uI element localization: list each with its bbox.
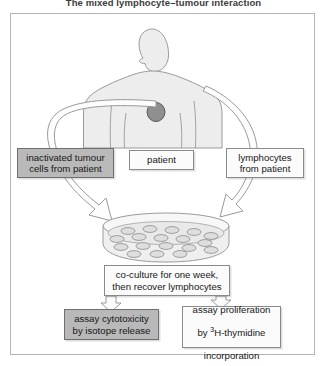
figure-caption: The mixed lymphocyte–tumour interaction [0, 0, 327, 8]
label-patient: patient [129, 150, 194, 170]
label-assay-proliferation: assay proliferation by 3H-thymidine inco… [182, 306, 281, 348]
assay-proliferation-line1: assay proliferation [193, 304, 271, 315]
label-coculture-step: co-culture for one week, then recover ly… [104, 265, 230, 296]
assay-proliferation-line2-pre: by [198, 327, 211, 338]
label-lymphocytes-from-patient: lymphocytes from patient [226, 148, 304, 178]
label-assay-cytotoxicity: assay cytotoxicity by isotope release [64, 309, 159, 340]
assay-proliferation-line3: incorporation [204, 350, 259, 361]
assay-proliferation-line2-post: H-thymidine [214, 327, 265, 338]
label-inactivated-tumour-cells: inactivated tumour cells from patient [17, 148, 114, 178]
